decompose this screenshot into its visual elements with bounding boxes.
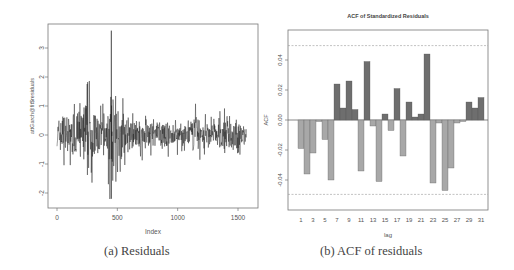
acf-bar <box>358 120 364 171</box>
x-tick-label: 25 <box>442 217 449 223</box>
acf-bar <box>304 120 310 174</box>
y-tick-label: 0.04 <box>277 54 283 66</box>
acf-bar <box>370 120 376 126</box>
x-tick-label: 29 <box>466 217 473 223</box>
x-tick-label: 11 <box>358 217 365 223</box>
acf-panel: ACF of Standardized Residuals-0.04-0.020… <box>260 0 514 270</box>
x-tick-label: 23 <box>430 217 437 223</box>
x-tick-label: 1500 <box>231 214 246 221</box>
x-axis-label: lag <box>384 232 392 238</box>
x-axis-label: Index <box>145 228 162 235</box>
y-tick-label: 1 <box>38 104 45 108</box>
x-tick-label: 7 <box>335 217 339 223</box>
x-tick-label: 21 <box>418 217 425 223</box>
acf-bar <box>424 54 430 120</box>
y-tick-label: -0.02 <box>277 143 283 157</box>
acf-bar <box>316 120 322 122</box>
x-tick-label: 1000 <box>170 214 185 221</box>
acf-bar <box>430 120 436 183</box>
x-tick-label: 3 <box>311 217 315 223</box>
acf-bar <box>448 120 454 168</box>
x-tick-label: 19 <box>406 217 413 223</box>
acf-bar <box>412 117 418 120</box>
x-tick-label: 17 <box>394 217 401 223</box>
acf-bar <box>478 98 484 121</box>
acf-bar <box>388 120 394 131</box>
acf-bar <box>394 89 400 121</box>
acf-bar <box>346 81 352 120</box>
residuals-caption: (a) Residuals <box>104 244 170 259</box>
acf-bar <box>436 120 442 123</box>
y-tick-label: 3 <box>38 46 45 50</box>
x-tick-label: 500 <box>112 214 123 221</box>
x-tick-label: 31 <box>478 217 485 223</box>
acf-bar <box>334 84 340 120</box>
acf-bar <box>418 114 424 120</box>
acf-bar <box>382 114 388 120</box>
y-tick-label: 0 <box>38 133 45 137</box>
acf-bar <box>442 120 448 191</box>
acf-bar <box>322 120 328 140</box>
acf-bar <box>328 120 334 180</box>
x-tick-label: 15 <box>382 217 389 223</box>
acf-bar <box>376 120 382 182</box>
acf-title: ACF of Standardized Residuals <box>347 13 429 19</box>
plot-frame <box>48 24 258 208</box>
residual-series-line <box>57 81 246 199</box>
x-tick-label: 9 <box>347 217 351 223</box>
acf-bar <box>298 120 304 149</box>
acf-caption: (b) ACF of residuals <box>320 244 422 259</box>
acf-bar <box>310 120 316 153</box>
y-axis-label: ACF <box>263 114 269 126</box>
y-tick-label: -0.04 <box>277 173 283 187</box>
acf-bar <box>400 120 406 156</box>
residuals-panel: -2-10123050010001500IndexattGarch@fit$re… <box>0 0 260 270</box>
y-tick-label: 0.02 <box>277 84 283 96</box>
x-tick-label: 0 <box>55 214 59 221</box>
y-tick-label: -2 <box>38 190 45 196</box>
acf-bar <box>364 62 370 121</box>
x-tick-label: 5 <box>323 217 327 223</box>
acf-bar <box>472 108 478 120</box>
acf-chart: ACF of Standardized Residuals-0.04-0.020… <box>260 0 514 240</box>
acf-bar <box>454 120 460 123</box>
y-axis-label: attGarch@fit$residuals <box>29 78 35 134</box>
acf-bar <box>406 102 412 120</box>
y-tick-label: 2 <box>38 75 45 79</box>
x-tick-label: 27 <box>454 217 461 223</box>
x-tick-label: 1 <box>299 217 303 223</box>
acf-bar <box>352 110 358 121</box>
y-tick-label: 0.00 <box>277 114 283 126</box>
x-tick-label: 13 <box>370 217 377 223</box>
acf-bar <box>466 102 472 120</box>
y-tick-label: -1 <box>38 161 45 167</box>
residuals-chart: -2-10123050010001500IndexattGarch@fit$re… <box>0 0 260 240</box>
acf-bar <box>460 120 466 122</box>
acf-bar <box>340 108 346 120</box>
